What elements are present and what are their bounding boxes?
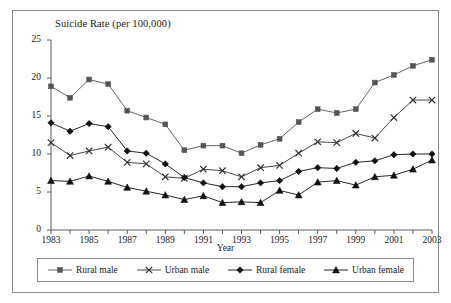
legend-item-label: Urban male [165, 265, 210, 275]
x-axis-tick-label: 1993 [227, 235, 257, 245]
diamond-marker-icon [227, 265, 253, 275]
x-axis-tick-label: 1991 [188, 235, 218, 245]
x-axis-tick-label: 1987 [112, 235, 142, 245]
y-axis-tick-label: 10 [19, 148, 41, 158]
y-axis-tick-label: 15 [19, 110, 41, 120]
x-axis-tick-label: 1989 [150, 235, 180, 245]
legend-item-label: Rural female [256, 265, 305, 275]
x-axis-tick-label: 2003 [417, 235, 447, 245]
x-axis-tick-label: 1997 [303, 235, 333, 245]
x-axis-tick-label: 1985 [74, 235, 104, 245]
y-axis-tick-label: 0 [19, 224, 41, 234]
x-axis-tick-label: 2001 [379, 235, 409, 245]
square-marker-icon [47, 265, 73, 275]
x-axis-tick-label: 1995 [265, 235, 295, 245]
chart-legend: Rural male Urban male Rural female Urban… [37, 258, 414, 282]
cross-marker-icon [136, 265, 162, 275]
legend-item: Urban female [323, 265, 404, 275]
legend-item: Rural male [47, 265, 118, 275]
legend-item-label: Urban female [352, 265, 404, 275]
chart-figure: Suicide Rate (per 100,000) Year Rural ma… [0, 0, 451, 303]
x-axis-tick-label: 1999 [341, 235, 371, 245]
triangle-marker-icon [323, 265, 349, 275]
x-axis-tick-label: 1983 [36, 235, 66, 245]
legend-item-label: Rural male [76, 265, 118, 275]
legend-item: Urban male [136, 265, 210, 275]
y-axis-tick-label: 20 [19, 72, 41, 82]
y-axis-tick-label: 5 [19, 186, 41, 196]
legend-item: Rural female [227, 265, 305, 275]
y-axis-tick-label: 25 [19, 34, 41, 44]
chart-title: Suicide Rate (per 100,000) [55, 18, 171, 29]
